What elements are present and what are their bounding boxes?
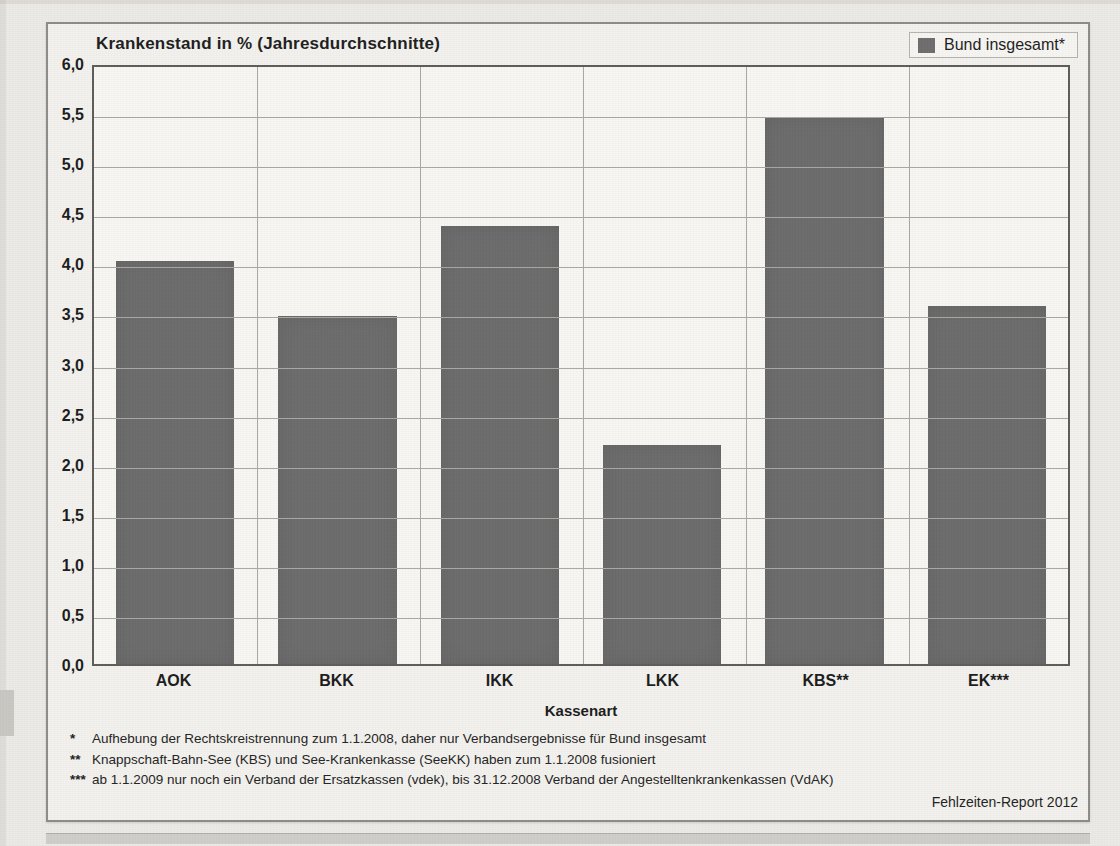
x-axis-tick-label: AOK: [92, 672, 255, 700]
horizontal-gridline: [94, 618, 1068, 619]
footnote-row: **Knappschaft-Bahn-See (KBS) und See-Kra…: [66, 751, 1074, 770]
x-axis-tick-label: EK***: [907, 672, 1070, 700]
legend-swatch-icon: [918, 38, 935, 53]
y-axis-tick-label: 4,0: [62, 256, 84, 274]
x-axis-tick-label: KBS**: [744, 672, 907, 700]
x-axis-title: Kassenart: [92, 702, 1070, 719]
horizontal-gridline: [94, 518, 1068, 519]
bar-lkk[interactable]: [603, 445, 721, 664]
vertical-gridline: [583, 67, 584, 664]
bar-cell: [256, 67, 418, 664]
horizontal-gridline: [94, 267, 1068, 268]
horizontal-gridline: [94, 468, 1068, 469]
figure-container: Krankenstand in % (Jahresdurchschnitte) …: [46, 22, 1090, 822]
footnote-text: Aufhebung der Rechtskreistrennung zum 1.…: [92, 730, 1074, 749]
bar-ikk[interactable]: [441, 226, 559, 664]
y-axis-tick-label: 2,0: [62, 457, 84, 475]
horizontal-gridline: [94, 317, 1068, 318]
y-axis-tick-label: 3,5: [62, 306, 84, 324]
y-axis-tick-label: 2,5: [62, 407, 84, 425]
bar-cell: [906, 67, 1068, 664]
horizontal-gridline: [94, 167, 1068, 168]
bar-ek[interactable]: [928, 306, 1046, 664]
y-axis-tick-label: 0,5: [62, 607, 84, 625]
x-axis-tick-label: IKK: [418, 672, 581, 700]
y-axis-tick-labels: 6,05,55,04,54,03,53,02,52,01,51,00,50,0: [48, 65, 90, 666]
y-axis-tick-label: 6,0: [62, 56, 84, 74]
plot-area: [92, 65, 1070, 666]
footnote-row: *Aufhebung der Rechtskreistrennung zum 1…: [66, 730, 1074, 749]
x-axis-tick-label: LKK: [581, 672, 744, 700]
x-axis-tick-label: BKK: [255, 672, 418, 700]
x-axis-tick-labels: AOKBKKIKKLKKKBS**EK***: [92, 672, 1070, 700]
bar-cell: [419, 67, 581, 664]
chart-legend: Bund insgesamt*: [909, 32, 1078, 58]
footnote-row: ***ab 1.1.2009 nur noch ein Verband der …: [66, 771, 1074, 790]
y-axis-tick-label: 1,5: [62, 507, 84, 525]
bar-aok[interactable]: [116, 261, 234, 664]
bar-cell: [94, 67, 256, 664]
bar-cell: [581, 67, 743, 664]
y-axis-tick-label: 1,0: [62, 557, 84, 575]
footnote-marker: **: [66, 751, 92, 770]
y-axis-tick-label: 5,5: [62, 106, 84, 124]
y-axis-tick-label: 3,0: [62, 357, 84, 375]
horizontal-gridline: [94, 418, 1068, 419]
bar-series: [94, 67, 1068, 664]
vertical-gridline: [746, 67, 747, 664]
footnote-marker: ***: [66, 771, 92, 790]
y-axis-tick-label: 0,0: [62, 657, 84, 675]
horizontal-gridline: [94, 217, 1068, 218]
y-axis-tick-label: 4,5: [62, 206, 84, 224]
horizontal-gridline: [94, 568, 1068, 569]
bar-cell: [743, 67, 905, 664]
footnote-list: *Aufhebung der Rechtskreistrennung zum 1…: [66, 730, 1074, 792]
horizontal-gridline: [94, 368, 1068, 369]
chart-title: Krankenstand in % (Jahresdurchschnitte): [96, 34, 440, 54]
vertical-gridline: [909, 67, 910, 664]
vertical-gridline: [420, 67, 421, 664]
y-axis-tick-label: 5,0: [62, 156, 84, 174]
page-edge-marker: [0, 690, 14, 736]
footnote-text: ab 1.1.2009 nur noch ein Verband der Ers…: [92, 771, 1074, 790]
footnote-marker: *: [66, 730, 92, 749]
legend-label: Bund insgesamt*: [944, 36, 1065, 54]
source-credit: Fehlzeiten-Report 2012: [932, 794, 1078, 810]
bar-kbs[interactable]: [765, 117, 883, 664]
horizontal-gridline: [94, 117, 1068, 118]
footnote-text: Knappschaft-Bahn-See (KBS) und See-Krank…: [92, 751, 1074, 770]
page-bottom-strip: [46, 833, 1090, 844]
vertical-gridline: [257, 67, 258, 664]
